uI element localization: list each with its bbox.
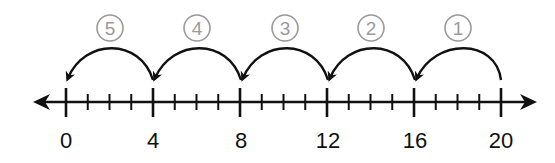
svg-text:5: 5 bbox=[105, 18, 116, 39]
jump-arc-5 bbox=[68, 48, 153, 80]
svg-text:3: 3 bbox=[280, 18, 291, 39]
tick-label-0: 0 bbox=[60, 128, 72, 153]
tick-label-12: 12 bbox=[316, 128, 340, 153]
jump-arc-2 bbox=[330, 48, 415, 80]
jump-arc-1 bbox=[417, 48, 501, 80]
svg-text:1: 1 bbox=[453, 18, 464, 39]
tick-label-4: 4 bbox=[147, 128, 159, 153]
tick-marks bbox=[66, 88, 501, 117]
step-labels: 1 2 3 4 5 bbox=[97, 15, 471, 41]
jump-arcs bbox=[68, 48, 501, 80]
jump-arc-3 bbox=[243, 48, 328, 80]
number-line-diagram: 0 4 8 12 16 20 1 2 3 4 5 bbox=[0, 0, 555, 163]
tick-label-20: 20 bbox=[489, 128, 513, 153]
step-label-1: 1 bbox=[445, 15, 471, 41]
svg-text:2: 2 bbox=[366, 18, 377, 39]
step-label-5: 5 bbox=[97, 15, 123, 41]
tick-labels: 0 4 8 12 16 20 bbox=[60, 128, 513, 153]
step-label-4: 4 bbox=[184, 15, 210, 41]
tick-label-16: 16 bbox=[403, 128, 427, 153]
step-label-2: 2 bbox=[358, 15, 384, 41]
svg-text:4: 4 bbox=[192, 18, 203, 39]
step-label-3: 3 bbox=[272, 15, 298, 41]
tick-label-8: 8 bbox=[235, 128, 247, 153]
jump-arc-4 bbox=[155, 48, 241, 80]
